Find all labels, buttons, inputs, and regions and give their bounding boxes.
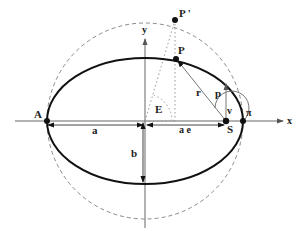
label-eccentric-anomaly: E (155, 103, 162, 115)
periapsis-point (240, 118, 246, 124)
label-semi-major: a (92, 124, 98, 136)
orbit-diagram: A π P P ' S x y a b a e E r p v (0, 0, 299, 231)
label-true-anomaly: v (227, 105, 232, 116)
label-semi-minor: b (131, 147, 137, 159)
label-projected: P ' (179, 7, 191, 19)
label-periapsis: π (246, 107, 252, 118)
label-semi-latus: p (215, 87, 221, 99)
label-focus: S (227, 123, 233, 135)
projected-point (172, 17, 178, 23)
diagram-canvas: A π P P ' S x y a b a e E r p v (0, 0, 299, 231)
label-axis-x: x (287, 115, 292, 126)
label-body: P (178, 44, 185, 56)
label-focal-offset: a e (179, 124, 192, 135)
body-point (173, 56, 179, 62)
label-axis-y: y (142, 24, 147, 35)
label-radius: r (196, 86, 201, 98)
label-apoapsis: A (34, 108, 42, 120)
apoapsis-point (44, 118, 50, 124)
